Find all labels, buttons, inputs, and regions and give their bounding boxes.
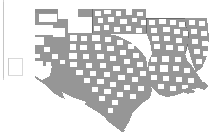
- county-ar-w6[interactable]: [163, 27, 170, 32]
- county-tx-w25[interactable]: [76, 70, 83, 75]
- county-tx-w36[interactable]: [104, 89, 111, 94]
- county-ar-w10[interactable]: [164, 36, 170, 41]
- map-canvas[interactable]: [0, 0, 212, 138]
- county-tx-w32[interactable]: [110, 82, 116, 87]
- county-tx-w8[interactable]: [80, 45, 87, 50]
- county-tx-w18[interactable]: [137, 62, 143, 67]
- county-nm-white-4[interactable]: [53, 28, 65, 37]
- county-tx-w3[interactable]: [92, 35, 100, 41]
- county-nm-white-8[interactable]: [52, 54, 58, 59]
- county-tx-w15[interactable]: [97, 54, 104, 59]
- county-tx-w4[interactable]: [105, 37, 111, 42]
- county-ar-w3[interactable]: [170, 20, 176, 25]
- county-ok-w5[interactable]: [137, 12, 143, 16]
- county-tx-w14[interactable]: [83, 54, 89, 59]
- county-tx-w39[interactable]: [99, 96, 105, 101]
- county-la-w7[interactable]: [184, 68, 190, 73]
- county-ok-panhandle-shaded[interactable]: [78, 9, 92, 17]
- county-ar-w14[interactable]: [178, 46, 184, 51]
- county-ar-w1[interactable]: [149, 20, 155, 25]
- county-ms-w8[interactable]: [203, 51, 208, 56]
- county-la-w6[interactable]: [173, 66, 179, 71]
- county-la-w3[interactable]: [175, 57, 181, 62]
- county-tx-w10[interactable]: [107, 46, 114, 51]
- county-tx-w35[interactable]: [92, 87, 98, 92]
- county-ok-w2[interactable]: [104, 10, 111, 14]
- county-ms-w2[interactable]: [199, 21, 205, 26]
- county-tx-w1[interactable]: [70, 35, 77, 41]
- county-ar-w8[interactable]: [183, 31, 188, 36]
- county-ar-w13[interactable]: [166, 45, 173, 50]
- county-nm-white-6[interactable]: [44, 47, 50, 52]
- county-tx-w20[interactable]: [86, 63, 92, 68]
- map-container[interactable]: South Central United States County Map T…: [0, 0, 212, 138]
- county-ar-w5[interactable]: [151, 28, 157, 33]
- county-ok-w8[interactable]: [120, 19, 127, 24]
- county-tx-w7[interactable]: [70, 44, 76, 50]
- county-tx-w11[interactable]: [120, 50, 126, 55]
- county-ms-w7[interactable]: [194, 49, 200, 54]
- county-la-w1[interactable]: [151, 57, 157, 62]
- county-ar-w4[interactable]: [179, 22, 185, 27]
- county-ok-w12[interactable]: [104, 25, 109, 30]
- county-tx-w19[interactable]: [70, 62, 77, 67]
- county-tx-w23[interactable]: [127, 68, 133, 73]
- county-tx-w37[interactable]: [117, 92, 123, 97]
- county-tx-w12[interactable]: [133, 53, 139, 58]
- county-ms-w1[interactable]: [189, 20, 195, 25]
- county-nm-white-7[interactable]: [35, 54, 40, 58]
- county-nm-white-2[interactable]: [58, 9, 68, 19]
- county-la-w11[interactable]: [188, 78, 194, 83]
- county-tx-w21[interactable]: [100, 63, 106, 68]
- county-ok-w1[interactable]: [95, 11, 101, 16]
- county-la-w10[interactable]: [176, 77, 182, 82]
- county-ar-w12[interactable]: [154, 44, 160, 49]
- county-ms-w4[interactable]: [201, 31, 207, 36]
- county-la-w13[interactable]: [170, 86, 176, 91]
- county-nm-white-11[interactable]: [60, 60, 65, 64]
- county-tx-w17[interactable]: [124, 59, 130, 64]
- county-nm-white-1[interactable]: [39, 14, 57, 22]
- county-tx-w27[interactable]: [104, 72, 110, 77]
- state-arkansas[interactable]: [146, 18, 189, 54]
- county-ok-panhandle-white[interactable]: [68, 9, 78, 17]
- county-tx-w30[interactable]: [84, 78, 90, 83]
- county-tx-w31[interactable]: [97, 79, 104, 84]
- county-ar-w11[interactable]: [176, 38, 182, 43]
- county-tx-w41[interactable]: [108, 108, 113, 113]
- county-la-w8[interactable]: [151, 75, 157, 80]
- county-tx-w38[interactable]: [130, 94, 136, 99]
- county-tx-w28[interactable]: [118, 75, 125, 80]
- county-tx-w9[interactable]: [95, 44, 101, 50]
- county-ar-w2[interactable]: [159, 19, 166, 24]
- county-tx-w13[interactable]: [69, 53, 77, 59]
- county-ok-w10[interactable]: [141, 20, 146, 25]
- county-ok-w13[interactable]: [114, 27, 120, 32]
- county-tx-w5[interactable]: [117, 40, 123, 45]
- county-ok-w6[interactable]: [98, 18, 103, 23]
- county-la-w5[interactable]: [160, 65, 168, 72]
- county-la-w12[interactable]: [158, 84, 164, 89]
- county-tx-w2[interactable]: [81, 36, 87, 41]
- county-tx-w26[interactable]: [90, 71, 96, 76]
- county-tx-w24[interactable]: [140, 71, 146, 76]
- county-nm-white-5[interactable]: [35, 37, 44, 45]
- county-ms-w5[interactable]: [192, 39, 198, 44]
- county-la-w2[interactable]: [162, 56, 169, 62]
- county-ok-w14[interactable]: [126, 26, 131, 31]
- map-inset-box[interactable]: [8, 58, 22, 75]
- county-tx-w6[interactable]: [128, 44, 134, 49]
- county-ok-w3[interactable]: [116, 11, 121, 16]
- county-tx-w22[interactable]: [113, 66, 120, 71]
- county-la-w4[interactable]: [149, 66, 155, 71]
- county-ok-w4[interactable]: [126, 9, 132, 15]
- county-ok-w11[interactable]: [94, 26, 100, 31]
- county-tx-w29[interactable]: [132, 77, 138, 82]
- county-ar-w9[interactable]: [152, 36, 159, 41]
- county-tx-w34[interactable]: [138, 86, 144, 91]
- county-ms-w9[interactable]: [196, 59, 202, 64]
- county-ok-w7[interactable]: [108, 17, 114, 22]
- county-nm-white-3[interactable]: [35, 25, 53, 35]
- county-ok-w9[interactable]: [132, 18, 137, 22]
- county-ar-w7[interactable]: [174, 29, 180, 34]
